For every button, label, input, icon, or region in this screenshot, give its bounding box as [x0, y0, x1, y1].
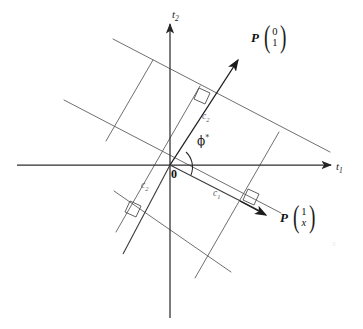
angle-arc [186, 152, 193, 175]
vector-paren-open-upper: ( [264, 26, 270, 49]
distance-label-c2-upper: c2 [202, 112, 209, 123]
vector-label-upper-P: P [251, 31, 259, 44]
line-family-a [64, 39, 330, 272]
level-line-b2 [116, 86, 200, 232]
vector-components-upper: 0 1 [272, 26, 277, 49]
diagram-canvas [0, 0, 363, 329]
figure-root: t2 t1 0 ϕ* c2 c2 c1 P ( 0 1 ) P ( 1 x [0, 0, 363, 329]
axis-label-t2: t2 [172, 9, 179, 23]
vector-label-lower-P: P [280, 211, 288, 224]
vector-paren-close-lower: ) [308, 206, 314, 229]
level-line-a2 [64, 100, 281, 213]
right-angle-lower-left-icon [125, 201, 141, 217]
level-line-a3 [114, 191, 231, 272]
vector-label-lower: P ( 1 x ) [280, 206, 317, 229]
vector-paren-open-lower: ( [293, 206, 299, 229]
origin-label: 0 [171, 168, 177, 180]
vector-paren-close-upper: ) [279, 26, 285, 49]
vector-components-lower: 1 x [301, 206, 306, 229]
angle-label-phi-star: ϕ* [197, 134, 209, 147]
faint-artifact: x [332, 239, 336, 248]
axis-label-t1: t1 [336, 161, 343, 175]
vector-lower-component-1: x [302, 217, 307, 228]
vector-upper-component-0: 0 [272, 26, 277, 37]
vector-upper-component-1: 1 [272, 37, 277, 48]
level-line-a1 [113, 39, 330, 152]
distance-label-c2-lower: c2 [141, 181, 148, 192]
right-angle-squares [125, 88, 259, 217]
vector-label-upper: P ( 0 1 ) [251, 26, 288, 49]
level-line-b3 [106, 60, 153, 141]
right-angle-upper-icon [194, 88, 210, 104]
distance-label-c1: c1 [213, 189, 220, 200]
vector-lower-component-0: 1 [301, 206, 306, 217]
